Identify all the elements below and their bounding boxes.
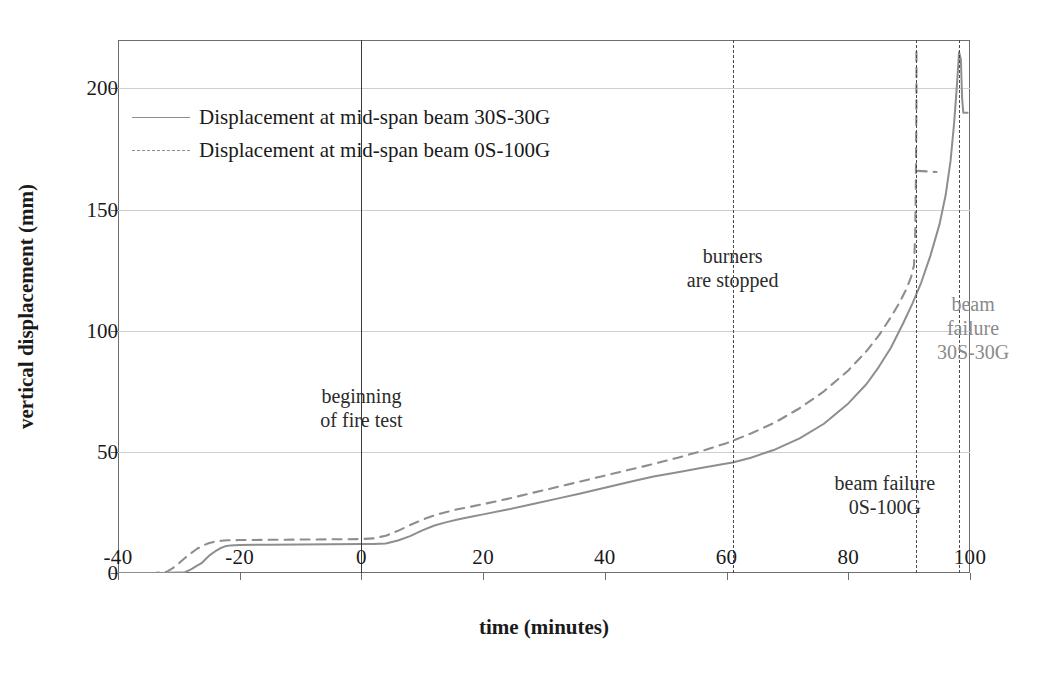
legend-key-dashed-icon	[132, 150, 190, 151]
x-tick	[240, 573, 241, 580]
event-line	[733, 40, 734, 573]
x-tick-label: 80	[837, 545, 859, 570]
chart-annotation: beam failure 30S-30G	[931, 292, 1015, 364]
x-tick-label: 0	[356, 545, 367, 570]
legend: Displacement at mid-span beam 30S-30G Di…	[132, 101, 652, 167]
legend-label: Displacement at mid-span beam 0S-100G	[199, 138, 550, 163]
series-post-failure-segment	[918, 171, 937, 172]
y-tick-label: 100	[87, 318, 119, 343]
figure: -40-20020406080100 050100150200 time (mi…	[0, 0, 1057, 676]
y-tick-label: 50	[97, 439, 118, 464]
y-axis-label: vertical displacement (mm)	[14, 40, 54, 573]
y-tick-label: 200	[87, 76, 119, 101]
x-axis-label: time (minutes)	[118, 615, 970, 640]
x-tick	[970, 573, 971, 580]
chart-annotation: beam failure 0S-100G	[835, 471, 936, 519]
y-tick-label: 150	[87, 197, 119, 222]
chart-annotation: burners are stopped	[687, 244, 779, 292]
x-tick	[118, 573, 119, 580]
x-tick	[848, 573, 849, 580]
legend-item: Displacement at mid-span beam 0S-100G	[132, 134, 652, 167]
chart-annotation: beginning of fire test	[320, 384, 402, 432]
x-tick	[483, 573, 484, 580]
y-tick-label: 0	[108, 561, 119, 586]
x-tick-label: 60	[716, 545, 738, 570]
x-tick	[361, 573, 362, 580]
x-tick	[727, 573, 728, 580]
x-tick	[605, 573, 606, 580]
legend-label: Displacement at mid-span beam 30S-30G	[199, 105, 550, 130]
x-tick-label: 20	[472, 545, 494, 570]
legend-item: Displacement at mid-span beam 30S-30G	[132, 101, 652, 134]
x-tick-label: 100	[954, 545, 986, 570]
x-tick-label: 40	[594, 545, 616, 570]
legend-key-solid-icon	[132, 117, 190, 119]
x-tick-label: -20	[225, 545, 254, 570]
